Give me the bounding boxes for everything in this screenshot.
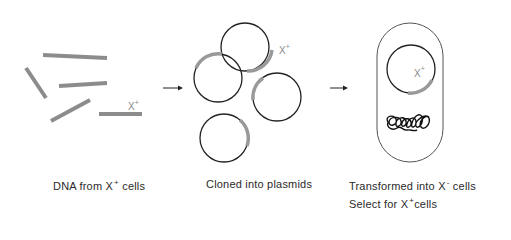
plasmid-4 [200,114,248,162]
dna-fragment-2 [26,68,46,98]
dna-fragment-4 [51,100,90,121]
x-plus-marker-plasmid: X+ [279,43,290,56]
dna-fragment-3 [59,83,107,86]
x-plus-marker-cell: X+ [414,65,425,79]
caption-select: Select for X+cells [349,196,437,210]
x-plus-marker-dna: X+ [128,99,139,112]
dna-fragments [26,55,142,121]
arrow-icon [163,86,183,91]
caption-transform: Transformed into X- cells [349,178,476,192]
dna-fragment-1 [43,55,107,58]
caption-dna: DNA from X+ cells [53,178,145,192]
plasmid-3 [253,73,301,121]
plasmid-2 [194,54,242,102]
plasmid-with-x-plus [221,23,272,71]
bacterial-cell [377,23,443,162]
cell-plasmid [387,45,435,93]
caption-plasmids: Cloned into plasmids [206,178,312,190]
arrow-icon [330,86,348,91]
chromosome-tangle [387,115,429,131]
